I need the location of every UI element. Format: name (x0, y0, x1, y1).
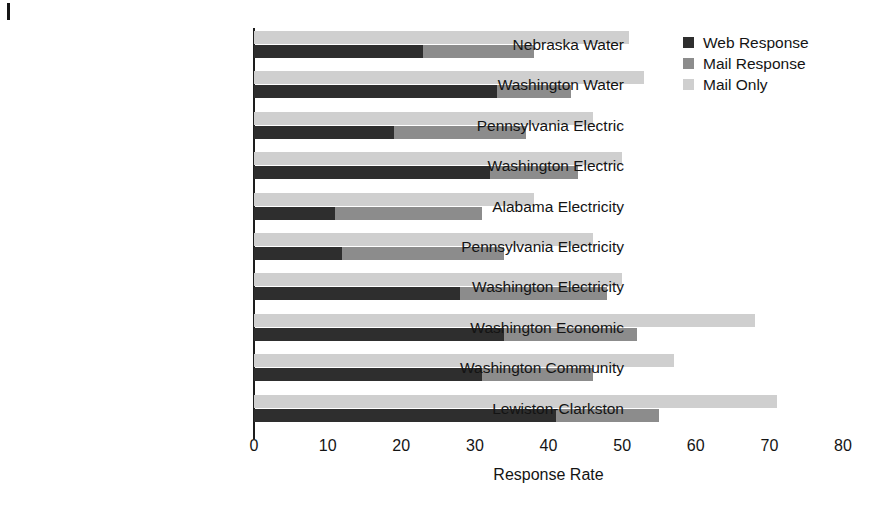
legend-label: Mail Response (703, 56, 806, 72)
category-label: Lewiston-Clarkston (492, 401, 624, 416)
segment-web-response (254, 207, 335, 220)
crop-tick-mark (7, 3, 10, 20)
segment-web-response (254, 85, 497, 98)
segment-web-response (254, 166, 490, 179)
legend-label: Mail Only (703, 77, 768, 93)
x-tick-label: 50 (613, 436, 631, 456)
x-tick-label: 60 (687, 436, 705, 456)
segment-web-response (254, 368, 482, 381)
legend-swatch-icon (683, 58, 694, 69)
category-label: Pennsylvania Electric (477, 118, 624, 133)
category-label: Washington Electric (488, 158, 624, 173)
legend-item: Mail Only (683, 74, 809, 95)
legend-item: Web Response (683, 32, 809, 53)
x-tick-label: 40 (540, 436, 558, 456)
segment-web-response (254, 287, 460, 300)
legend-label: Web Response (703, 35, 809, 51)
segment-web-response (254, 247, 342, 260)
legend-item: Mail Response (683, 53, 809, 74)
category-label: Washington Community (460, 360, 624, 375)
legend: Web ResponseMail ResponseMail Only (683, 32, 809, 95)
segment-mail-response (335, 207, 482, 220)
x-tick-label: 80 (834, 436, 852, 456)
x-tick-label: 20 (392, 436, 410, 456)
category-label: Pennsylvania Electricity (461, 239, 624, 254)
segment-web-response (254, 126, 394, 139)
x-tick-label: 30 (466, 436, 484, 456)
legend-swatch-icon (683, 37, 694, 48)
category-label: Alabama Electricity (492, 199, 624, 214)
figure-bar-chart-response-rate: 01020304050607080 Response Rate Web Resp… (0, 0, 886, 518)
legend-swatch-icon (683, 79, 694, 90)
category-label: Washington Economic (470, 320, 624, 335)
segment-web-response (254, 328, 504, 341)
category-label: Washington Electricity (472, 279, 624, 294)
x-tick-label: 10 (319, 436, 337, 456)
x-axis-tick-labels: 01020304050607080 (254, 436, 843, 458)
category-label: Nebraska Water (513, 37, 624, 52)
x-tick-label: 0 (250, 436, 259, 456)
x-axis-label: Response Rate (254, 466, 843, 484)
x-tick-label: 70 (760, 436, 778, 456)
segment-web-response (254, 45, 423, 58)
category-label: Washington Water (498, 77, 624, 92)
